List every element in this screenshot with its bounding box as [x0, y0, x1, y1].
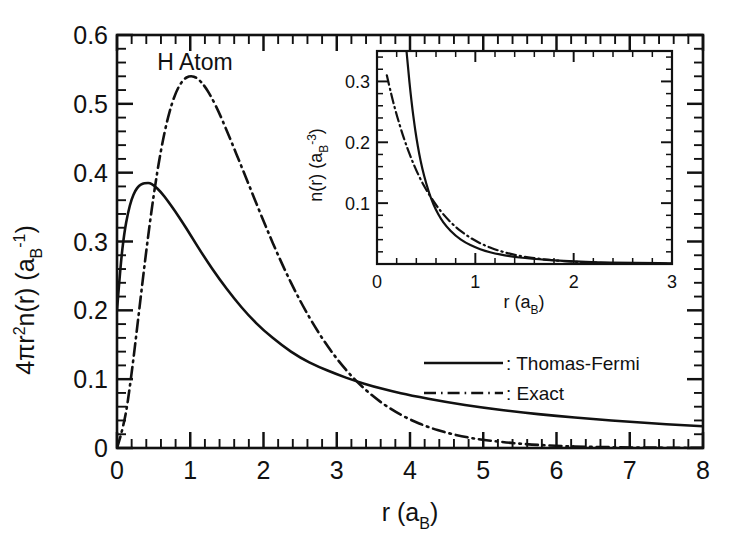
- x-tick-label: 7: [623, 456, 637, 484]
- inset-y-axis-label: n(r) (aB-3): [305, 128, 331, 202]
- y-tick-label: 0.2: [345, 133, 370, 153]
- x-tick-label: 3: [667, 272, 677, 292]
- legend-label-exact: : Exact: [506, 383, 565, 404]
- x-tick-label: 1: [183, 456, 197, 484]
- x-tick-label: 2: [569, 272, 579, 292]
- y-tick-label: 0.4: [73, 159, 108, 187]
- inset-background: [377, 51, 672, 264]
- x-tick-label: 1: [470, 272, 480, 292]
- y-tick-label: 0.6: [73, 21, 108, 49]
- h-atom-annotation: H Atom: [157, 49, 232, 75]
- x-tick-label: 3: [330, 456, 344, 484]
- x-tick-label: 4: [403, 456, 417, 484]
- x-tick-label: 8: [696, 456, 710, 484]
- y-tick-label: 0.1: [345, 194, 370, 214]
- x-tick-label: 0: [372, 272, 382, 292]
- y-tick-label: 0.5: [73, 90, 108, 118]
- x-tick-label: 5: [476, 456, 490, 484]
- chart-canvas: 01234567800.10.20.30.40.50.6H Atom4πr2n(…: [0, 0, 733, 547]
- y-tick-label: 0.1: [73, 365, 108, 393]
- y-tick-label: 0.3: [73, 228, 108, 256]
- figure-root: 01234567800.10.20.30.40.50.6H Atom4πr2n(…: [0, 0, 733, 547]
- y-tick-label: 0.2: [73, 296, 108, 324]
- main-y-axis-label: 4πr2n(r) (aB-1): [11, 225, 45, 375]
- x-tick-label: 6: [550, 456, 564, 484]
- main-x-axis-label: r (aB): [382, 498, 439, 532]
- legend-label-thomas-fermi: : Thomas-Fermi: [506, 353, 640, 374]
- x-tick-label: 0: [110, 456, 124, 484]
- inset-plot: 01230.10.20.3n(r) (aB-3)r (aB): [305, 51, 677, 317]
- legend: : Thomas-Fermi: Exact: [424, 353, 640, 404]
- inset-x-axis-label: r (aB): [503, 292, 544, 317]
- x-tick-label: 2: [257, 456, 271, 484]
- y-tick-label: 0.3: [345, 72, 370, 92]
- y-tick-label: 0: [94, 434, 108, 462]
